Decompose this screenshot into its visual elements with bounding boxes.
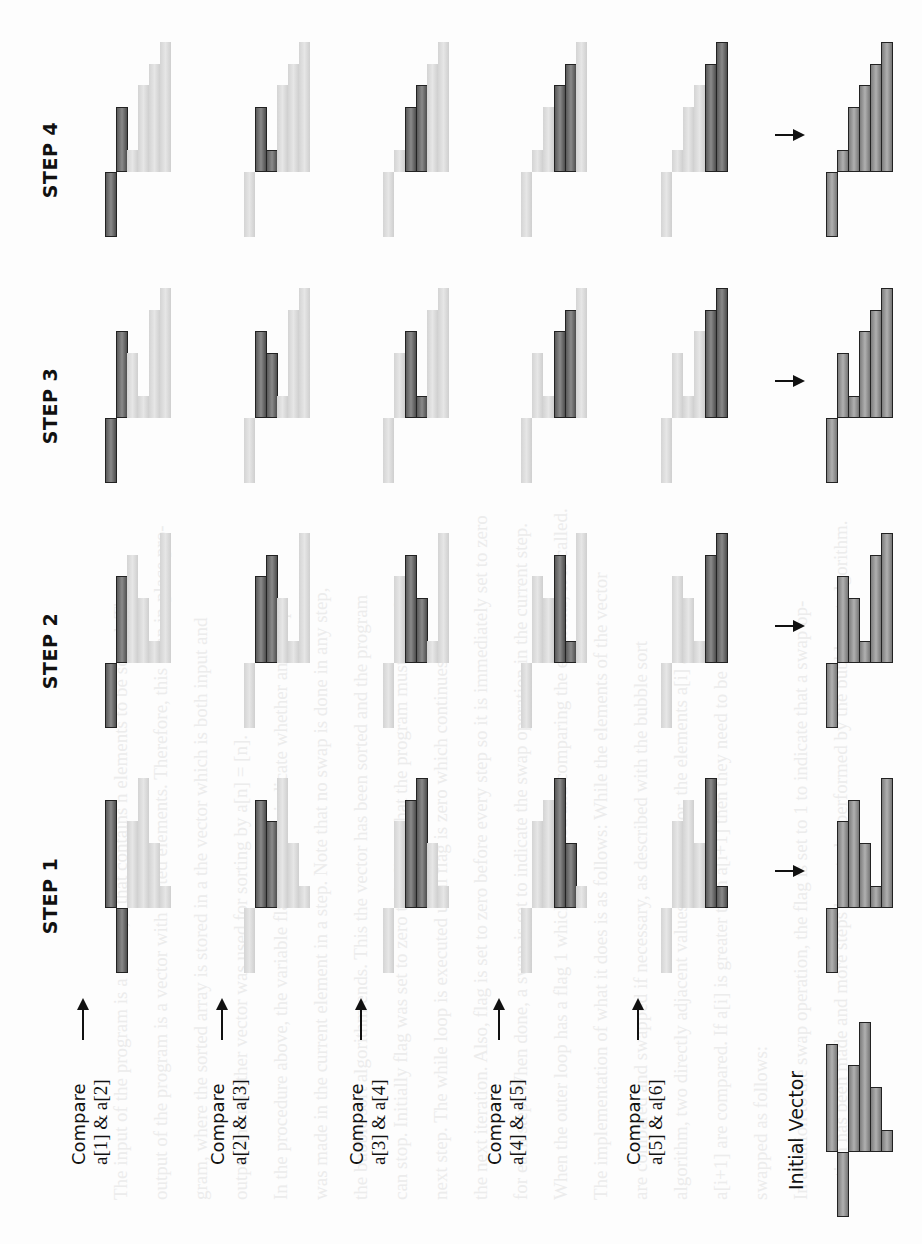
bar-a6 — [299, 533, 310, 663]
compare-word: Compare — [623, 1080, 645, 1165]
compare-label-3: Comparea[3] & a[4] — [346, 1080, 390, 1165]
bar-a1 — [521, 908, 532, 973]
bar-a5 — [427, 843, 438, 908]
compare-label-4: Comparea[4] & a[5] — [484, 1080, 528, 1165]
up-arrow-icon — [221, 1008, 223, 1040]
bar-a6 — [881, 42, 893, 172]
bar-a6 — [881, 778, 893, 908]
bar-a2 — [532, 576, 543, 663]
bar-a1 — [105, 663, 117, 728]
bar-a6 — [299, 42, 310, 172]
up-arrow-icon — [637, 1008, 639, 1040]
compare-word: Compare — [207, 1080, 229, 1165]
right-arrow-icon — [775, 134, 795, 136]
bar-a2 — [394, 353, 405, 418]
bar-a3 — [543, 107, 554, 172]
bar-a5 — [149, 843, 160, 908]
bar-a4 — [694, 843, 705, 908]
background-text-line: a[i+1] are compared. If a[i] is greater … — [710, 671, 732, 1200]
bar-a6 — [299, 886, 310, 908]
bar-a6 — [881, 1130, 893, 1152]
figure-canvas: The input of the program is a vector, a … — [0, 0, 922, 1244]
bar-a6 — [438, 42, 449, 172]
bar-a1 — [244, 908, 255, 973]
bar-a6 — [438, 533, 449, 663]
bar-a4 — [694, 641, 705, 663]
bar-a6 — [299, 288, 310, 418]
bar-a1 — [826, 663, 838, 728]
up-arrow-icon — [82, 1008, 84, 1040]
bar-a4 — [138, 396, 149, 418]
step-label-2: STEP 2 — [39, 613, 61, 689]
bar-a5 — [288, 310, 299, 419]
bar-a2 — [532, 150, 543, 172]
bar-a3 — [683, 598, 694, 663]
bar-a4 — [138, 598, 149, 663]
bar-a1 — [826, 418, 838, 483]
bar-a2 — [532, 821, 543, 908]
background-text-line: was made in the current element in a ste… — [310, 587, 332, 1200]
background-text-line: next step. The while loop is executed un… — [430, 661, 452, 1200]
bar-a6 — [716, 42, 728, 172]
step-label-4: STEP 4 — [39, 122, 61, 198]
compare-word: Compare — [484, 1080, 506, 1165]
background-text-line: algorithm, two directly adjacent values … — [670, 637, 692, 1200]
bar-a1 — [383, 418, 394, 483]
bar-a6 — [576, 533, 587, 663]
bar-a4 — [277, 598, 288, 663]
bar-a6 — [881, 533, 893, 663]
bar-a1 — [383, 172, 394, 237]
bar-a2 — [672, 150, 683, 172]
bar-a1 — [661, 908, 672, 973]
bar-a6 — [881, 288, 893, 418]
bar-a2 — [394, 150, 405, 172]
bar-a2 — [672, 821, 683, 908]
bar-a5 — [288, 641, 299, 663]
bar-a2 — [837, 1152, 849, 1217]
bar-a1 — [826, 908, 838, 973]
bar-a1 — [661, 172, 672, 237]
compare-label-5: Comparea[5] & a[6] — [623, 1080, 667, 1165]
bar-a1 — [521, 418, 532, 483]
bar-a3 — [127, 821, 138, 908]
bar-a6 — [160, 533, 171, 663]
bar-a4 — [138, 85, 149, 172]
bar-a5 — [149, 641, 160, 663]
compare-expression: a[1] & a[2] — [90, 1080, 112, 1165]
bar-a1 — [661, 663, 672, 728]
compare-word: Compare — [346, 1080, 368, 1165]
compare-label-2: Comparea[2] & a[3] — [207, 1080, 251, 1165]
bar-a3 — [127, 150, 138, 172]
bar-a3 — [683, 107, 694, 172]
bar-a6 — [576, 42, 587, 172]
bar-a6 — [438, 288, 449, 418]
bar-a4 — [694, 85, 705, 172]
bar-a1 — [244, 172, 255, 237]
bar-a6 — [160, 288, 171, 418]
bar-a3 — [683, 396, 694, 418]
bar-a3 — [543, 800, 554, 909]
bar-a1 — [826, 172, 838, 237]
bar-a3 — [127, 555, 138, 664]
bar-a5 — [427, 64, 438, 173]
right-arrow-icon — [775, 625, 795, 627]
bar-a1 — [661, 418, 672, 483]
bar-a6 — [576, 886, 587, 908]
bar-a1 — [383, 663, 394, 728]
bar-a6 — [160, 886, 171, 908]
background-text-line: swapped as follows: — [750, 1046, 772, 1200]
bar-a6 — [716, 288, 728, 418]
bar-a6 — [160, 42, 171, 172]
bar-a1 — [521, 663, 532, 728]
bar-a5 — [427, 641, 438, 663]
compare-expression: a[4] & a[5] — [506, 1080, 528, 1165]
bar-a4 — [138, 778, 149, 908]
up-arrow-icon — [498, 1008, 500, 1040]
compare-expression: a[3] & a[4] — [368, 1080, 390, 1165]
bar-a2 — [672, 353, 683, 418]
bar-a6 — [716, 886, 728, 908]
bar-a2 — [394, 821, 405, 908]
bar-a2 — [394, 576, 405, 663]
bar-a4 — [277, 85, 288, 172]
bar-a3 — [543, 396, 554, 418]
